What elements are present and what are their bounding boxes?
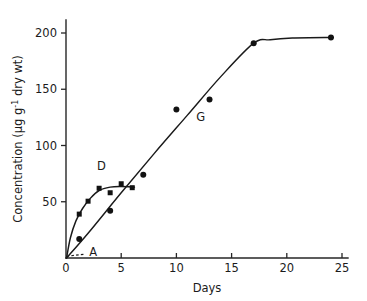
data-point-square [77,212,82,217]
data-point-circle [251,40,257,46]
y-axis-ticks: 50100150200 [35,26,66,209]
x-tick-label: 10 [169,261,184,275]
data-point-circle [207,96,213,102]
data-point-circle [328,35,334,41]
y-axis-title: Concentration (μg g-1 dry wt) [11,55,25,223]
y-tick-label: 100 [35,139,57,153]
x-axis-ticks: 0510152025 [62,253,349,275]
data-point-square [119,181,124,186]
y-tick-label: 200 [35,26,57,40]
chart-figure: 50100150200 0510152025 D G A Days Concen… [0,0,367,301]
data-point-circle [140,172,146,178]
series-g-markers [76,35,334,242]
series-d-label: D [97,159,106,173]
chart-axes [66,20,348,258]
series-g-label: G [196,110,205,124]
data-point-square [108,190,113,195]
y-axis-title-tail: dry wt) [11,55,25,100]
x-tick-label: 20 [279,261,294,275]
x-tick-label: 5 [118,261,125,275]
y-tick-label: 50 [42,195,57,209]
data-point-square [130,185,135,190]
y-tick-label: 150 [35,82,57,96]
data-point-circle [173,107,179,113]
x-tick-label: 25 [335,261,350,275]
x-tick-label: 0 [62,261,69,275]
concentration-vs-days-chart: 50100150200 0510152025 D G A Days Concen… [0,0,367,301]
x-axis-title: Days [193,281,222,295]
data-point-square [97,186,102,191]
y-axis-title-main: Concentration (μg g [11,108,25,223]
data-point-circle [76,236,82,242]
y-axis-title-exponent: -1 [11,100,20,108]
data-point-square [86,199,91,204]
x-tick-label: 15 [224,261,239,275]
data-point-circle [107,208,113,214]
annotation-a-label: A [89,245,97,259]
curve-g-path [67,38,334,259]
